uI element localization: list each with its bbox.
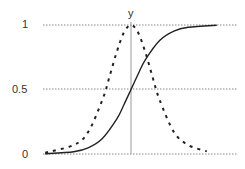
y-tick-label-0.5: 0.5 — [12, 84, 27, 95]
y-tick-label-1: 1 — [22, 19, 28, 30]
chart-plot-area — [0, 0, 245, 169]
y-tick-label-0: 0 — [22, 149, 28, 160]
bell-curve — [45, 25, 207, 153]
gridlines — [43, 25, 237, 154]
y-axis-title: y — [128, 8, 134, 19]
